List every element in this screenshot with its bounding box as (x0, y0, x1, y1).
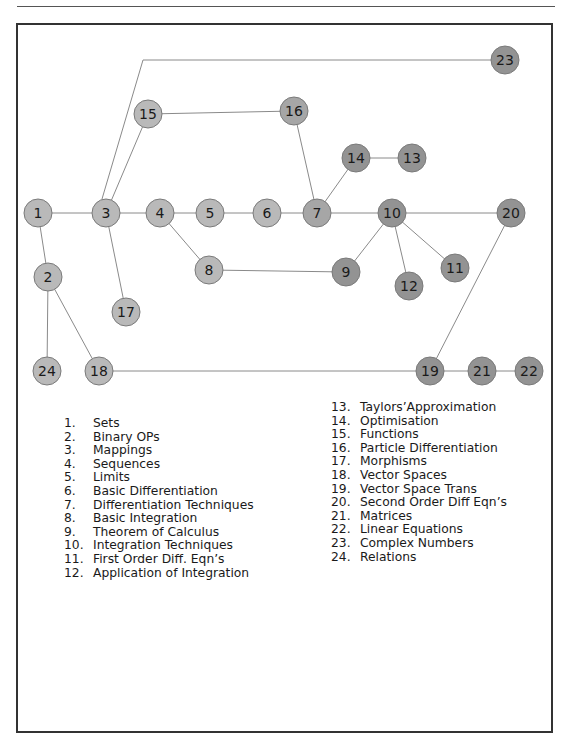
legend-label: Basic Integration (93, 512, 197, 526)
legend-label: Second Order Diff Eqn’s (360, 496, 507, 510)
legend-item: 9.Theorem of Calculus (64, 526, 254, 540)
legend-item: 23.Complex Numbers (331, 537, 507, 551)
legend-number: 5. (64, 471, 93, 485)
node-9: 9 (332, 258, 360, 286)
node-label: 19 (421, 363, 439, 379)
node-3: 3 (92, 199, 120, 227)
node-2: 2 (34, 263, 62, 291)
node-label: 23 (496, 52, 514, 68)
node-label: 8 (205, 262, 214, 278)
legend-item: 5.Limits (64, 471, 254, 485)
node-label: 4 (156, 205, 165, 221)
node-label: 14 (347, 150, 365, 166)
node-label: 17 (117, 304, 135, 320)
node-label: 13 (403, 150, 421, 166)
legend-item: 10.Integration Techniques (64, 539, 254, 553)
legend-item: 21.Matrices (331, 510, 507, 524)
legend-item: 1.Sets (64, 417, 254, 431)
legend-item: 16.Particle Differentiation (331, 442, 507, 456)
legend-label: First Order Diff. Eqn’s (93, 553, 225, 567)
node-label: 3 (102, 205, 111, 221)
node-label: 11 (446, 260, 464, 276)
legend-label: Linear Equations (360, 523, 463, 537)
node-label: 9 (342, 264, 351, 280)
legend-label: Optimisation (360, 415, 439, 429)
node-15: 15 (134, 100, 162, 128)
node-22: 22 (515, 357, 543, 385)
node-1: 1 (24, 199, 52, 227)
node-17: 17 (112, 298, 140, 326)
legend-column-1: 1.Sets2.Binary OPs3.Mappings4.Sequences5… (64, 417, 254, 580)
legend-number: 17. (331, 455, 360, 469)
legend-label: Sets (93, 417, 120, 431)
node-14: 14 (342, 144, 370, 172)
edge-3-17 (106, 213, 126, 312)
legend-number: 19. (331, 483, 360, 497)
legend-label: Differentiation Techniques (93, 499, 254, 513)
node-19: 19 (416, 357, 444, 385)
edge-3-23 (102, 60, 491, 199)
legend-column-2: 13.Taylors’Approximation14.Optimisation1… (331, 401, 507, 564)
edge-8-9 (209, 270, 346, 272)
node-13: 13 (398, 144, 426, 172)
legend-label: Integration Techniques (93, 539, 233, 553)
edge-16-7 (294, 111, 317, 213)
node-label: 18 (90, 363, 108, 379)
legend-number: 18. (331, 469, 360, 483)
node-7: 7 (303, 199, 331, 227)
legend-number: 21. (331, 510, 360, 524)
node-23: 23 (491, 46, 519, 74)
legend-item: 4.Sequences (64, 458, 254, 472)
node-label: 12 (400, 278, 418, 294)
edge-2-18 (48, 277, 99, 371)
node-label: 15 (139, 106, 157, 122)
legend-label: Complex Numbers (360, 537, 474, 551)
legend-number: 24. (331, 551, 360, 565)
legend-label: Taylors’Approximation (360, 401, 496, 415)
legend-item: 18.Vector Spaces (331, 469, 507, 483)
legend-label: Theorem of Calculus (93, 526, 219, 540)
legend-number: 3. (64, 444, 93, 458)
legend-label: Relations (360, 551, 416, 565)
legend-label: Functions (360, 428, 419, 442)
node-24: 24 (33, 357, 61, 385)
node-label: 24 (38, 363, 56, 379)
legend-item: 13.Taylors’Approximation (331, 401, 507, 415)
legend-label: Basic Differentiation (93, 485, 218, 499)
legend-label: Vector Space Trans (360, 483, 477, 497)
node-label: 10 (383, 205, 401, 221)
legend-number: 10. (64, 539, 93, 553)
legend-number: 9. (64, 526, 93, 540)
node-20: 20 (497, 199, 525, 227)
legend-label: Matrices (360, 510, 412, 524)
node-label: 22 (520, 363, 538, 379)
node-label: 5 (206, 205, 215, 221)
legend-label: Binary OPs (93, 431, 160, 445)
edge-19-20 (430, 213, 511, 371)
legend-item: 8.Basic Integration (64, 512, 254, 526)
legend-number: 12. (64, 567, 93, 581)
legend-number: 16. (331, 442, 360, 456)
node-label: 2 (44, 269, 53, 285)
legend-number: 23. (331, 537, 360, 551)
graph-nodes: 123456789101112131415161718192021222324 (24, 46, 543, 385)
node-12: 12 (395, 272, 423, 300)
legend-number: 22. (331, 523, 360, 537)
legend-item: 24.Relations (331, 551, 507, 565)
legend-number: 6. (64, 485, 93, 499)
legend-label: Sequences (93, 458, 160, 472)
legend-label: Application of Integration (93, 567, 249, 581)
node-5: 5 (196, 199, 224, 227)
node-label: 6 (263, 205, 272, 221)
legend-item: 7.Differentiation Techniques (64, 499, 254, 513)
legend-item: 2.Binary OPs (64, 431, 254, 445)
legend-item: 11.First Order Diff. Eqn’s (64, 553, 254, 567)
node-label: 20 (502, 205, 520, 221)
node-6: 6 (253, 199, 281, 227)
node-label: 1 (34, 205, 43, 221)
legend-item: 19.Vector Space Trans (331, 483, 507, 497)
node-16: 16 (280, 97, 308, 125)
legend-item: 3.Mappings (64, 444, 254, 458)
legend-label: Limits (93, 471, 130, 485)
legend-item: 12.Application of Integration (64, 567, 254, 581)
